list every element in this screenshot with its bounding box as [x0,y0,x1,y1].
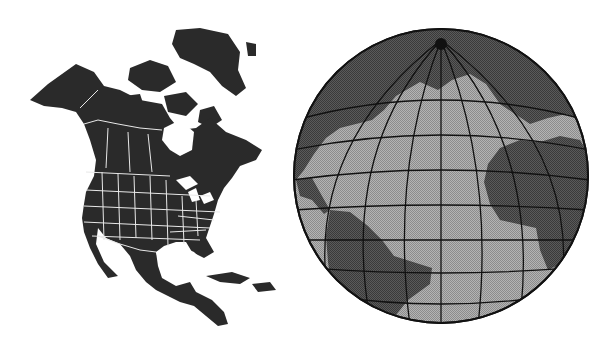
north-pole-marker [435,38,447,50]
atlantic-globe [290,20,600,330]
mainland-shape [30,64,262,326]
north-america-map [30,28,276,326]
caribbean-islands [206,272,276,292]
greenland-shape [172,28,246,96]
clipart-canvas [0,0,612,352]
